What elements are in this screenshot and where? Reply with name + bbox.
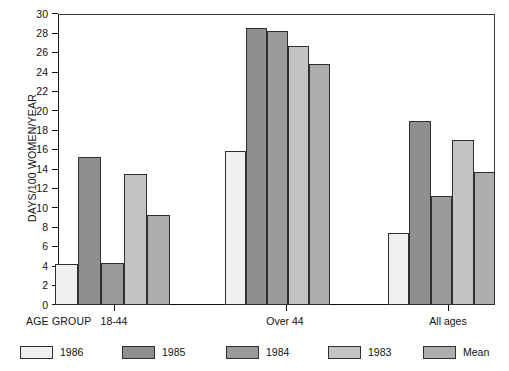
- y-tick-label: 28: [8, 28, 48, 38]
- bars-layer: [58, 14, 495, 305]
- bar-1985-Over-44: [246, 28, 267, 305]
- x-tick: [114, 305, 115, 311]
- x-group-label-18-44: 18-44: [54, 315, 174, 327]
- y-tick-label: 2: [8, 280, 48, 290]
- legend-label-1984: 1984: [266, 346, 289, 358]
- y-axis-label: DAYS/100 WOMEN/YEAR: [26, 48, 38, 268]
- bar-1986-Over-44: [225, 151, 246, 305]
- x-tick: [448, 305, 449, 311]
- legend-item-Mean[interactable]: Mean: [423, 343, 489, 361]
- legend-swatch-1984: [226, 346, 259, 359]
- bar-1983-Over-44: [288, 46, 309, 305]
- y-tick-label: 24: [8, 67, 48, 77]
- bar-chart: DAYS/100 WOMEN/YEAR 02468101214161820222…: [0, 0, 509, 371]
- legend-swatch-1985: [122, 346, 155, 359]
- legend-item-1986[interactable]: 1986: [20, 343, 83, 361]
- y-tick-label: 20: [8, 106, 48, 116]
- y-tick-label: 30: [8, 9, 48, 19]
- bar-1984-18-44: [101, 263, 124, 305]
- y-tick-label: 10: [8, 203, 48, 213]
- y-tick-label: 12: [8, 183, 48, 193]
- y-tick-label: 14: [8, 164, 48, 174]
- y-tick-label: 4: [8, 261, 48, 271]
- bar-1986-All-ages: [388, 233, 409, 305]
- bar-1985-All-ages: [409, 121, 430, 305]
- legend-swatch-1983: [328, 346, 361, 359]
- bar-1985-18-44: [78, 157, 101, 305]
- legend-label-1985: 1985: [162, 346, 185, 358]
- bar-1983-All-ages: [452, 140, 473, 305]
- bar-1986-18-44: [55, 264, 78, 305]
- legend-swatch-1986: [20, 346, 53, 359]
- legend-item-1985[interactable]: 1985: [122, 343, 185, 361]
- bar-1984-Over-44: [267, 31, 288, 306]
- bar-Mean-Over-44: [309, 64, 330, 305]
- legend-item-1983[interactable]: 1983: [328, 343, 391, 361]
- bar-Mean-All-ages: [474, 172, 495, 305]
- y-tick-label: 16: [8, 144, 48, 154]
- legend-label-Mean: Mean: [463, 346, 489, 358]
- bar-1984-All-ages: [431, 196, 452, 305]
- legend-item-1984[interactable]: 1984: [226, 343, 289, 361]
- legend-swatch-Mean: [423, 346, 456, 359]
- legend-label-1986: 1986: [60, 346, 83, 358]
- y-tick-label: 6: [8, 241, 48, 251]
- y-tick-label: 8: [8, 222, 48, 232]
- y-tick-label: 22: [8, 86, 48, 96]
- bar-Mean-18-44: [147, 215, 170, 305]
- y-tick-label: 18: [8, 125, 48, 135]
- x-tick: [286, 305, 287, 311]
- bar-1983-18-44: [124, 174, 147, 305]
- x-group-label-All-ages: All ages: [388, 315, 508, 327]
- x-group-label-Over-44: Over 44: [225, 315, 345, 327]
- chart-legend: 1986198519841983Mean: [0, 343, 509, 365]
- legend-label-1983: 1983: [368, 346, 391, 358]
- y-tick-label: 26: [8, 47, 48, 57]
- y-tick-label: 0: [8, 300, 48, 310]
